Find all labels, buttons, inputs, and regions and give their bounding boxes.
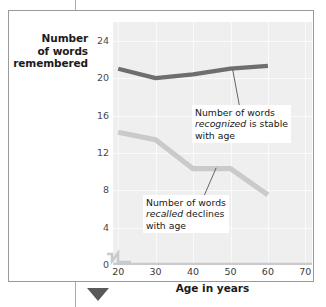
annotation-recalled-line-1: Number of words	[146, 197, 226, 208]
y-tick-label: 4	[83, 223, 109, 233]
y-axis-title-line-3: remembered	[10, 57, 88, 70]
annotation-recognized-line-3: with age	[195, 130, 288, 141]
x-axis-title: Age in years	[113, 282, 312, 294]
annotation-recalled-line-3: with age	[146, 220, 226, 231]
y-tick-labels: 24201612840	[83, 22, 109, 265]
x-tick-label: 70	[293, 266, 317, 277]
annotation-recalled-emphasis: recalled	[146, 208, 183, 219]
y-tick-label: 24	[83, 36, 109, 46]
y-tick-label: 8	[83, 185, 109, 195]
annotation-recognized: Number of words recognized is stable wit…	[192, 105, 291, 143]
annotation-recalled: Number of words recalled declines with a…	[143, 195, 229, 233]
y-tick-label: 20	[83, 73, 109, 83]
x-tick-label: 40	[181, 266, 205, 277]
annotation-recognized-line-2: recognized is stable	[195, 118, 288, 129]
y-tick-label: 16	[83, 111, 109, 121]
annotation-recognized-line-2-rest: is stable	[246, 118, 288, 129]
x-tick-labels: 203040506070	[113, 266, 312, 280]
page-margin-rule-bottom	[75, 282, 76, 307]
x-tick-label: 60	[256, 266, 280, 277]
annotation-recognized-line-1: Number of words	[195, 107, 288, 118]
y-axis-title: Number of words remembered	[10, 32, 88, 70]
chart-figure: Number of words remembered 24201612840 2…	[0, 0, 326, 307]
x-tick-label: 50	[219, 266, 243, 277]
annotation-recalled-line-2: recalled declines	[146, 208, 226, 219]
y-axis-title-line-2: of words	[10, 45, 88, 58]
y-tick-label: 12	[83, 148, 109, 158]
bottom-triangle-marker	[87, 288, 109, 301]
series-line-recognized	[118, 66, 268, 78]
x-tick-label: 30	[144, 266, 168, 277]
annotation-recognized-emphasis: recognized	[195, 118, 246, 129]
x-axis-break-icon	[106, 248, 132, 268]
leader-line-recognized	[233, 70, 241, 110]
y-axis-title-line-1: Number	[10, 32, 88, 45]
annotation-recalled-line-2-rest: declines	[183, 208, 224, 219]
x-tick-label: 20	[106, 266, 130, 277]
